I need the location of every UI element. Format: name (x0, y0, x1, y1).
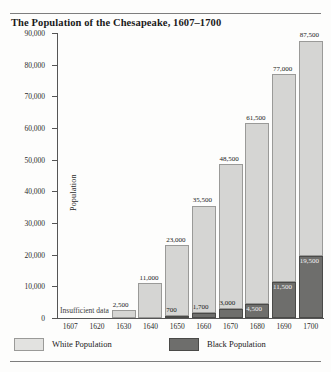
bar-value-label-black-1660: 1,700 (193, 303, 209, 311)
x-tick-label-1630: 1630 (116, 322, 131, 331)
y-tick-mark (52, 128, 57, 129)
bar-value-label-white-1660: 35,500 (193, 196, 212, 204)
y-tick-mark (52, 65, 57, 66)
bottom-rule (10, 361, 321, 362)
chart-legend: White Population Black Population (14, 336, 314, 352)
bar-column-1640: 11,000 (138, 33, 162, 318)
bar-column-1660: 35,5001,700 (192, 33, 216, 318)
x-axis-line (57, 318, 324, 319)
y-tick-label: 50,000 (24, 155, 45, 164)
bar-value-label-white-1640: 11,000 (139, 274, 158, 282)
bar-column-1690: 77,00011,500 (272, 33, 296, 318)
y-tick-label: 40,000 (24, 187, 45, 196)
x-tick-label-1607: 1607 (63, 322, 78, 331)
y-tick-label: 60,000 (24, 124, 45, 133)
legend-swatch-white-icon (14, 338, 44, 351)
y-tick-label: 20,000 (24, 250, 45, 259)
legend-label-white: White Population (52, 339, 112, 349)
bar-column-1700: 87,50019,500 (299, 33, 323, 318)
bar-column-1630: 2,500 (112, 33, 136, 318)
bar-segment-black-1650 (165, 316, 189, 318)
y-tick-label: 90,000 (24, 29, 45, 38)
x-tick-label-1670: 1670 (223, 322, 238, 331)
y-tick-mark (52, 191, 57, 192)
y-tick-label: 0 (41, 314, 45, 323)
y-tick-mark (52, 286, 57, 287)
x-tick-label-1620: 1620 (90, 322, 105, 331)
bar-segment-black-1660 (192, 313, 216, 318)
y-tick-label: 30,000 (24, 219, 45, 228)
bar-segment-white-1690 (272, 74, 296, 281)
bar-column-1680: 61,5004,500 (245, 33, 269, 318)
y-tick-mark (52, 255, 57, 256)
bar-column-1650: 23,000700 (165, 33, 189, 318)
bar-value-label-white-1630: 2,500 (113, 301, 129, 309)
top-rule (10, 13, 321, 14)
y-tick-mark (52, 160, 57, 161)
bar-segment-white-1700 (299, 41, 323, 256)
legend-item-black-population: Black Population (169, 336, 266, 352)
bar-value-label-white-1690: 77,000 (273, 65, 292, 73)
y-tick-mark (52, 33, 57, 34)
bar-value-label-black-1690: 11,500 (273, 283, 292, 291)
bar-segment-white-1650 (165, 245, 189, 316)
x-tick-label-1680: 1680 (250, 322, 265, 331)
bar-value-label-black-1670: 3,000 (220, 299, 236, 307)
plot-area: Population 010,00020,00030,00040,00050,0… (57, 33, 324, 318)
bar-value-label-white-1670: 48,500 (220, 155, 239, 163)
bar-segment-white-1640 (138, 283, 162, 318)
bar-column-1607 (58, 33, 82, 318)
x-tick-label-1700: 1700 (303, 322, 318, 331)
y-tick-mark (52, 223, 57, 224)
chart-figure: The Population of the Chesapeake, 1607–1… (0, 0, 331, 372)
x-tick-label-1640: 1640 (143, 322, 158, 331)
y-tick-label: 70,000 (24, 92, 45, 101)
legend-label-black: Black Population (207, 339, 266, 349)
bar-value-label-white-1700: 87,500 (300, 31, 319, 39)
x-tick-label-1660: 1660 (196, 322, 211, 331)
y-tick-mark (52, 318, 57, 319)
legend-swatch-black-icon (169, 338, 199, 351)
bar-segment-white-1660 (192, 206, 216, 313)
bar-segment-white-1630 (112, 310, 136, 318)
x-tick-label-1690: 1690 (276, 322, 291, 331)
x-tick-label-1650: 1650 (170, 322, 185, 331)
bar-segment-black-1700 (299, 256, 323, 318)
bar-segment-white-1670 (219, 164, 243, 308)
chart-title: The Population of the Chesapeake, 1607–1… (11, 17, 221, 28)
bar-value-label-white-1650: 23,000 (166, 236, 185, 244)
legend-item-white-population: White Population (14, 336, 112, 352)
bar-segment-black-1670 (219, 309, 243, 319)
bar-segment-white-1680 (245, 123, 269, 304)
y-tick-label: 10,000 (24, 282, 45, 291)
bar-column-1620 (85, 33, 109, 318)
bar-column-1670: 48,5003,000 (219, 33, 243, 318)
bar-value-label-black-1680: 4,500 (246, 305, 262, 313)
bar-value-label-black-1650: 700 (166, 306, 177, 314)
y-tick-label: 80,000 (24, 60, 45, 69)
insufficient-data-note: Insufficient data (60, 306, 109, 315)
bar-value-label-black-1700: 19,500 (300, 257, 319, 265)
y-tick-mark (52, 96, 57, 97)
bar-value-label-white-1680: 61,500 (246, 114, 265, 122)
